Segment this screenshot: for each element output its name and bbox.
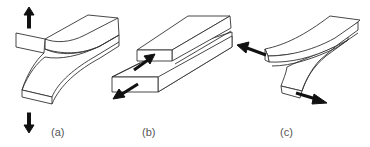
arrow-left-icon [237,42,266,55]
panel-label-c: (c) [280,126,293,138]
mode-tearing-drawing [0,0,370,147]
panel-c: (c) [0,0,370,147]
fracture-modes-figure: (a) (b) [0,0,370,147]
arrow-right-icon [296,93,327,104]
